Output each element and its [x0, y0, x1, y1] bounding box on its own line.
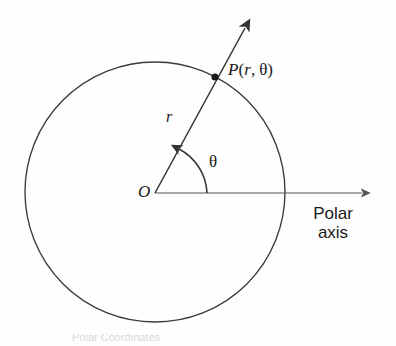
point-p-marker [211, 73, 218, 80]
clipped-caption-text: Polar Coordinates [72, 334, 160, 343]
point-p-radius: r [244, 60, 251, 79]
radius-label: r [166, 108, 172, 126]
point-p-angle: θ [255, 60, 267, 79]
angle-label: θ [209, 152, 217, 171]
polar-axis-label-line1: Polar [297, 204, 369, 223]
polar-axis-label: Polar axis [297, 204, 369, 242]
point-p-name: P [228, 60, 238, 79]
polar-coordinate-figure: O r θ P(r,θ) Polar axis Polar Coordinate… [0, 0, 396, 346]
clipped-caption-strip: Polar Coordinates [0, 334, 396, 346]
point-p-close-paren: ) [267, 60, 273, 79]
angle-arc [179, 149, 207, 193]
point-p-label: P(r,θ) [228, 60, 273, 79]
origin-label: O [138, 182, 150, 201]
polar-axis-label-line2: axis [297, 223, 369, 242]
diagram-canvas [0, 0, 396, 346]
